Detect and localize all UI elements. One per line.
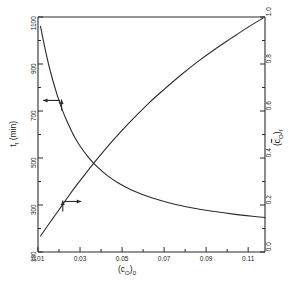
pointer-head <box>77 199 82 203</box>
y-left-tick-label: 100 <box>31 251 38 277</box>
chart-figure: 0.010.030.050.070.090.11 100300500700900… <box>0 0 288 288</box>
right-y-axis-title: (cO)f <box>272 108 284 168</box>
y-left-tick-label: 700 <box>31 110 38 136</box>
x-axis-title: (cO)0 <box>118 264 136 276</box>
data-curves <box>41 18 265 236</box>
x-tick-label: 0.01 <box>24 256 52 263</box>
x-tick-label: 0.03 <box>66 256 94 263</box>
x-tick-label: 0.07 <box>150 256 178 263</box>
y-right-tick-label: 1.0 <box>266 0 273 16</box>
x-tick-label: 0.09 <box>192 256 220 263</box>
y-right-tick-label: 0.0 <box>266 225 273 251</box>
y-right-tick-label: 0.2 <box>266 178 273 204</box>
axis-ticks <box>38 17 265 252</box>
axis-pointers <box>43 98 81 211</box>
pointer-head <box>43 98 48 102</box>
pointer-stem-head <box>60 99 64 104</box>
y-left-tick-label: 1100 <box>31 16 38 42</box>
right-axis-pointer <box>61 199 82 211</box>
y-left-tick-label: 500 <box>31 157 38 183</box>
axes <box>38 17 265 252</box>
x-tick-label: 0.05 <box>108 256 136 263</box>
plot-canvas <box>0 0 288 288</box>
left-y-axis-title: tf (min) <box>8 104 20 164</box>
y-left-tick-label: 300 <box>31 204 38 230</box>
curve-c-O-f <box>41 18 263 236</box>
y-left-tick-label: 900 <box>31 63 38 89</box>
y-right-tick-label: 0.8 <box>266 37 273 63</box>
x-tick-label: 0.11 <box>234 256 262 263</box>
y-right-tick-label: 0.6 <box>266 84 273 110</box>
